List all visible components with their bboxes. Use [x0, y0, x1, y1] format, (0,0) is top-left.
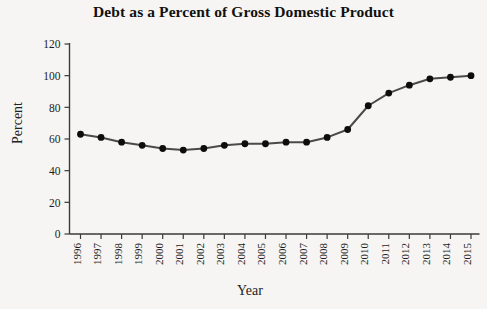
data-point-marker — [303, 139, 310, 146]
x-axis-tick-label: 2007 — [297, 243, 309, 266]
x-axis-tick-label: 2002 — [194, 243, 206, 265]
x-axis-tick-label: 2012 — [399, 243, 411, 265]
y-axis-tick-label: 20 — [49, 197, 61, 209]
x-axis-tick-label: 1998 — [112, 243, 124, 266]
y-axis-tick-label: 80 — [49, 102, 61, 114]
data-point-marker — [200, 145, 207, 152]
data-point-marker — [324, 134, 331, 141]
x-axis-tick-label: 2005 — [255, 243, 267, 266]
x-axis-tick-label: 2013 — [420, 243, 432, 266]
x-axis-tick-label: 2001 — [173, 243, 185, 265]
data-point-marker — [118, 139, 125, 146]
data-point-marker — [139, 142, 146, 149]
data-point-marker — [98, 134, 105, 141]
data-point-marker — [385, 90, 392, 97]
x-axis-tick-label: 2004 — [235, 243, 247, 266]
series-line — [81, 76, 472, 150]
y-axis-tick-label: 40 — [49, 165, 61, 177]
x-axis-tick-label: 2015 — [461, 243, 473, 266]
data-point-marker — [242, 140, 249, 147]
plot-area: 020406080100120 199619971998199920002001… — [0, 0, 487, 309]
x-axis-tick-label: 2003 — [214, 243, 226, 266]
y-axis-tick-label: 0 — [55, 228, 61, 240]
x-axis-tick-label: 1999 — [132, 243, 144, 266]
chart-figure: Debt as a Percent of Gross Domestic Prod… — [0, 0, 487, 309]
data-series-debt-percent-gdp — [77, 72, 474, 153]
data-point-marker — [159, 145, 166, 152]
y-axis-tick-label: 60 — [49, 133, 61, 145]
data-point-marker — [180, 147, 187, 154]
x-axis-tick-label: 2008 — [317, 243, 329, 266]
x-axis-tick-label: 2009 — [338, 243, 350, 266]
x-axis-tick-label: 2006 — [276, 243, 288, 266]
data-point-marker — [426, 75, 433, 82]
x-axis: 1996199719981999200020012002200320042005… — [70, 234, 480, 265]
x-axis-tick-label: 1997 — [91, 243, 103, 266]
x-axis-tick-label: 2011 — [379, 243, 391, 265]
data-point-marker — [262, 140, 269, 147]
data-point-marker — [283, 139, 290, 146]
data-point-marker — [406, 82, 413, 89]
y-axis: 020406080100120 — [43, 38, 69, 240]
data-point-marker — [365, 102, 372, 109]
x-axis-tick-label: 2000 — [153, 243, 165, 266]
y-axis-tick-label: 100 — [43, 70, 61, 82]
x-axis-tick-label: 2014 — [440, 243, 452, 266]
x-axis-tick-label: 1996 — [71, 243, 83, 266]
data-point-marker — [344, 126, 351, 133]
data-point-marker — [221, 142, 228, 149]
data-point-marker — [447, 74, 454, 81]
y-axis-tick-label: 120 — [43, 38, 61, 50]
data-point-marker — [77, 131, 84, 138]
data-point-marker — [468, 72, 475, 79]
x-axis-tick-label: 2010 — [358, 243, 370, 266]
